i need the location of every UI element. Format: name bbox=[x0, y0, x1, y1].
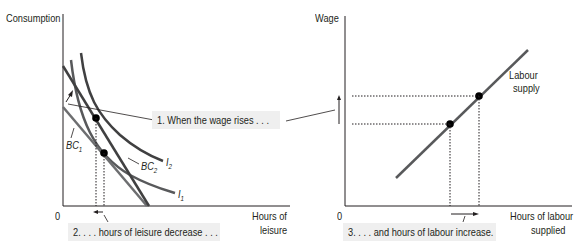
budget-constraint-bc2 bbox=[63, 66, 149, 206]
label-i1: I1 bbox=[178, 188, 184, 205]
x-axis-label-leisure-line1: Hours of bbox=[252, 210, 287, 222]
annotation-labour-increase: 3. . . . and hours of labour increase. bbox=[343, 223, 496, 241]
origin-label-left: 0 bbox=[55, 210, 60, 222]
x-axis-label-labour-line2: supplied bbox=[531, 224, 565, 236]
annotation-wage-rises: 1. When the wage rises . . . bbox=[152, 111, 280, 129]
arrow-up-icon bbox=[337, 95, 341, 100]
right-axes bbox=[345, 16, 572, 206]
label-labour-supply-line1: Labour bbox=[509, 69, 538, 81]
arrow-right-icon bbox=[473, 212, 479, 216]
label-i2: I2 bbox=[166, 156, 172, 173]
label-bc2: BC2 bbox=[141, 160, 157, 177]
y-axis-label-consumption: Consumption bbox=[6, 12, 60, 24]
label-labour-supply-line2: supply bbox=[513, 82, 540, 94]
arrow-up-icon bbox=[68, 90, 73, 97]
diagram-canvas bbox=[0, 0, 581, 243]
x-axis-label-labour-line1: Hours of labour bbox=[510, 210, 573, 222]
indifference-curve-i2 bbox=[81, 53, 163, 161]
arrow-left-icon bbox=[93, 210, 98, 214]
label-bc1: BC1 bbox=[66, 139, 82, 156]
x-axis-label-leisure-line2: leisure bbox=[260, 224, 287, 236]
y-axis-label-wage: Wage bbox=[315, 12, 339, 24]
annotation-leisure-decrease: 2. . . . hours of leisure decrease . . . bbox=[68, 223, 220, 241]
origin-label-right: 0 bbox=[337, 210, 342, 222]
